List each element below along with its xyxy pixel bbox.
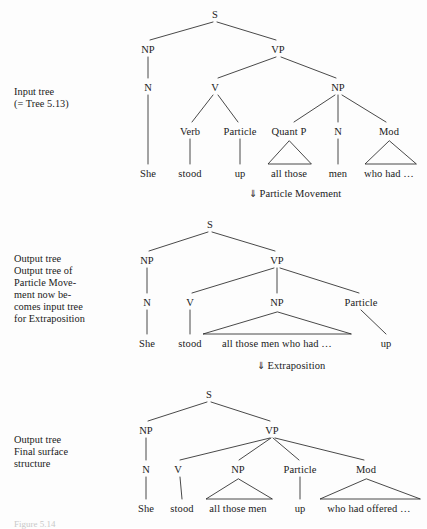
tree2-leaf-np-span: all those men who had … [222,338,332,349]
annotation-particle-movement-label: Particle Movement [259,188,341,199]
tree1-node-NP: NP [141,44,155,55]
tree1-node-S: S [212,9,218,20]
tree1-leaf-men: men [329,168,347,179]
tree2-node-V: V [186,297,194,308]
section-label-output-tree-final: Output tree Final surface structure [14,434,68,470]
tree3-leaf-she: She [138,503,154,514]
tree1-leaf-stood: stood [178,168,201,179]
tree3-node-S: S [206,389,212,400]
triangle-who-had [365,141,416,164]
tree3-node-V: V [174,464,182,475]
tree2-node-NP: NP [140,255,154,266]
tree1-node-N-head: N [334,126,342,137]
section-label-output-tree-particle-movement: Output tree Output tree of Particle Move… [14,253,85,326]
tree2-node-NP-obj: NP [270,297,284,308]
down-arrow-icon: ⇓ [249,188,259,199]
tree1-node-VP: VP [271,44,285,55]
tree3-leaf-who-had-offered: who had offered … [327,503,410,514]
tree1-node-NP-obj: NP [331,82,345,93]
figure-caption: Figure 5.14 [14,519,56,529]
tree2-edges [147,232,386,334]
triangle-all-those [268,141,311,164]
tree1-leaf-up: up [235,168,246,179]
tree1-node-Particle: Particle [224,126,257,137]
tree3-edges [146,402,420,499]
tree1-node-QuantP: Quant P [272,126,307,137]
tree1-node-V: V [211,82,219,93]
tree1-node-N: N [144,82,152,93]
tree1-leaf-she: She [140,168,156,179]
tree2-leaf-she: She [139,338,155,349]
tree3-node-Particle: Particle [284,464,317,475]
tree2-leaf-stood: stood [178,338,201,349]
tree3-leaf-all-those-men: all those men [209,503,266,514]
tree1-node-Verb: Verb [180,126,200,137]
tree3-node-NP-obj: NP [231,464,245,475]
triangle-who-had-offered [320,479,420,499]
tree3-node-Mod: Mod [356,464,376,475]
tree3-leaf-up: up [295,503,306,514]
annotation-particle-movement: ⇓Particle Movement [249,188,341,200]
tree2-node-N: N [143,297,151,308]
tree2-leaf-up: up [381,338,392,349]
annotation-extraposition-label: Extraposition [267,360,325,371]
tree2-node-Particle: Particle [345,297,378,308]
tree3-node-N: N [142,464,150,475]
tree1-leaf-all-those: all those [271,168,307,179]
triangle-np-span [203,312,351,334]
tree1-node-Mod: Mod [379,126,399,137]
section-label-input-tree: Input tree (= Tree 5.13) [14,86,69,110]
annotation-extraposition: ⇓Extraposition [257,360,325,372]
tree1-leaf-who-had: who had … [364,168,414,179]
tree3-node-VP: VP [265,425,279,436]
tree3-node-NP: NP [139,425,153,436]
triangle-all-those-men [206,479,272,499]
tree2-node-S: S [207,219,213,230]
down-arrow-icon: ⇓ [257,360,267,371]
tree3-leaf-stood: stood [170,503,193,514]
tree2-node-VP: VP [270,255,284,266]
